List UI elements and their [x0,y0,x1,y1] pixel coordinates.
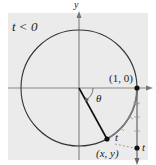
arc-t-label: t [115,132,118,143]
x-axis-arrow-icon [146,86,153,91]
point-x-y-label: (x, y) [96,148,119,159]
y-axis-label: y [74,0,78,10]
condition-label: t < 0 [12,20,37,33]
number-line-arrow-icon [135,158,140,165]
point-1-0-label: (1, 0) [109,73,133,84]
background-panel [8,13,148,160]
point-x-y [104,136,109,141]
number-line-t-label: t [142,142,145,153]
point-1-0 [134,85,139,90]
angle-label: θ [96,93,101,104]
point-t-number-line [134,145,139,150]
